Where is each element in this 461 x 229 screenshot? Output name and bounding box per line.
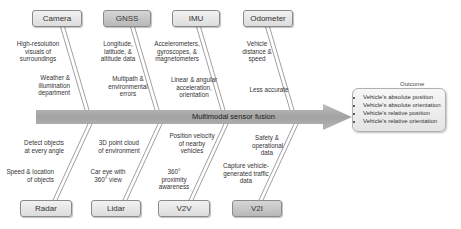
cause-radar: Radar <box>20 200 72 217</box>
spine-label: Multimodal sensor fusion <box>192 112 275 121</box>
outcome-item: Vehicle's absolute position <box>363 93 445 101</box>
v2i-lower-label: Capture vehicle-generated traffic data <box>222 162 270 185</box>
cause-lidar: Lidar <box>91 200 141 217</box>
cause-v2i: V2I <box>232 200 282 217</box>
imu-upper-label: Accelerometers, gyroscopes, & magnetomet… <box>148 40 206 63</box>
outcome-box: Vehicle's absolute position Vehicle's ab… <box>352 88 446 132</box>
outcome-item: Vehicle's relative orientation <box>363 117 445 125</box>
cause-v2v: V2V <box>158 200 210 217</box>
cause-camera: Camera <box>32 10 82 27</box>
outcome-title: Outcome <box>400 81 424 87</box>
odometer-lower-label: Less accurate <box>244 86 294 94</box>
imu-lower-label: Linear & angular acceleration, orientati… <box>166 76 222 99</box>
odometer-upper-label: Vehicle distance & speed <box>238 40 276 63</box>
outcome-item: Vehicle's absolute orientation <box>363 101 445 109</box>
camera-lower-label: Weather & illumination department <box>22 74 70 97</box>
gnss-lower-label: Multipath & environmental errors <box>104 75 152 98</box>
lidar-upper-label: 3D point cloud of environment <box>98 139 140 154</box>
outcome-item: Vehicle's relative position <box>363 109 445 117</box>
radar-upper-label: Detect objects at every angle <box>22 139 64 154</box>
cause-odometer: Odometer <box>243 10 293 27</box>
gnss-upper-label: Longitude, latitude, & altitude data <box>98 40 138 63</box>
lidar-lower-label: Car eye with 360° view <box>90 168 126 183</box>
v2v-lower-label: 360° proximity awareness <box>156 168 192 191</box>
radar-lower-label: Speed & location of objects <box>6 168 54 183</box>
cause-gnss: GNSS <box>103 10 151 27</box>
v2v-upper-label: Position velocity of nearby vehicles <box>168 132 216 155</box>
cause-imu: IMU <box>172 10 220 27</box>
v2i-upper-label: Safety & operational data <box>252 134 282 157</box>
camera-upper-label: High-resolution visuals of surroundings <box>14 40 62 63</box>
